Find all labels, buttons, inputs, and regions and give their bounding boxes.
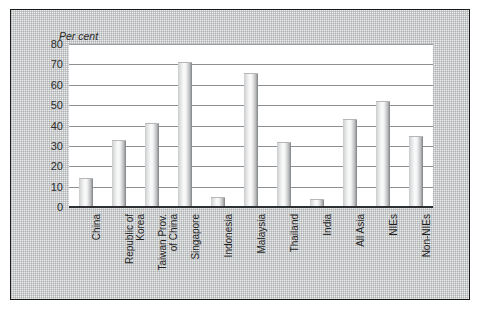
bar [376,101,390,207]
x-axis-tick-label: Singapore [190,214,201,300]
y-axis-title: Per cent [59,30,98,42]
x-axis-tick-label: Republic of Korea [124,214,146,300]
y-axis-tick-label: 10 [51,182,63,193]
gridline [69,64,433,65]
y-axis-tick-label: 70 [51,59,63,70]
bar [178,62,192,207]
chart-figure-frame: Per cent 80706050403020100 ChinaRepublic… [10,9,470,300]
x-axis-tick-label: NIEs [388,214,399,300]
gridline [69,44,433,45]
bar [112,140,126,207]
y-axis-tick-label: 0 [57,202,63,213]
x-axis-tick-label: Taiwan Prov. of China [157,214,179,300]
y-axis-tick-label: 80 [51,39,63,50]
plot-area: 80706050403020100 [69,44,433,207]
bar [244,73,258,207]
x-axis-tick-label: Malaysia [256,214,267,300]
y-axis-tick-label: 40 [51,121,63,132]
x-axis-tick-label: Non-NIEs [421,214,432,300]
bar [343,119,357,207]
x-axis-line [69,206,433,208]
y-axis-tick-label: 20 [51,161,63,172]
bar [277,142,291,207]
y-axis-tick-label: 30 [51,141,63,152]
y-axis-tick-label: 60 [51,80,63,91]
x-axis-tick-label: All Asia [355,214,366,300]
x-axis-tick-labels: ChinaRepublic of KoreaTaiwan Prov. of Ch… [69,210,433,300]
bar [145,123,159,207]
x-axis-tick-label: China [91,214,102,300]
y-axis-tick-label: 50 [51,100,63,111]
bar [79,178,93,207]
x-axis-tick-label: Indonesia [223,214,234,300]
bar [409,136,423,207]
x-axis-tick-label: India [322,214,333,300]
x-axis-tick-label: Thailand [289,214,300,300]
